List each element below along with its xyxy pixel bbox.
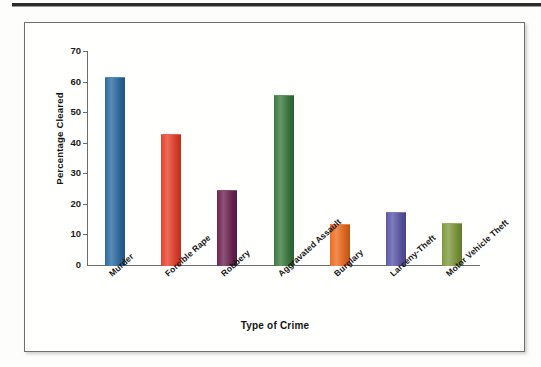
bar-murder[interactable] (105, 77, 125, 265)
bar-aggravated-assault[interactable] (274, 95, 294, 265)
y-tick-label: 50 (55, 107, 81, 117)
y-tick-label: 70 (55, 46, 81, 56)
bar-robbery[interactable] (217, 190, 237, 265)
y-tick-label: 0 (55, 260, 81, 270)
bar-fill (217, 190, 237, 266)
y-tick-label: 60 (55, 77, 81, 87)
y-tick-label: 40 (55, 138, 81, 148)
bar-fill (161, 134, 181, 266)
y-tick-mark (83, 173, 87, 174)
bar-chart-plot-area: Percentage Cleared Type of Crime 0102030… (25, 23, 524, 351)
x-axis-label: Type of Crime (175, 320, 375, 331)
bar-fill (105, 77, 125, 266)
screenshot-page: Percentage Cleared Type of Crime 0102030… (0, 0, 541, 367)
y-tick-label: 30 (55, 168, 81, 178)
y-tick-mark (83, 234, 87, 235)
chart-figure-frame: Percentage Cleared Type of Crime 0102030… (24, 22, 525, 352)
page-top-rule-shadow (12, 6, 541, 7)
y-axis-line (87, 51, 88, 265)
y-tick-mark (83, 143, 87, 144)
y-tick-mark (83, 204, 87, 205)
y-tick-mark (83, 82, 87, 83)
bar-fill (274, 95, 294, 266)
y-tick-label: 20 (55, 199, 81, 209)
y-tick-mark (83, 51, 87, 52)
bar-forcible-rape[interactable] (161, 134, 181, 265)
y-tick-label: 10 (55, 229, 81, 239)
y-tick-mark (83, 112, 87, 113)
